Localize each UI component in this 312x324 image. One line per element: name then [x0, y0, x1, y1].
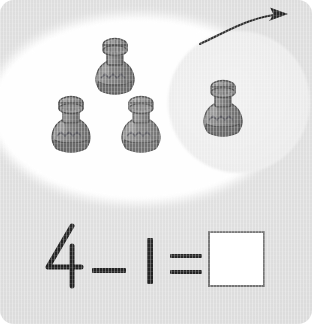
bottle-icon-3: bottle-3	[114, 92, 168, 158]
bottle-icon-4-removed: bottle-4	[196, 76, 250, 142]
worksheet-card: bottle-1	[0, 0, 312, 324]
take-away-arrow: take-away-arrow	[196, 4, 312, 50]
subtrahend-digit-1: 1	[147, 238, 153, 284]
minuend-digit-4: 4	[42, 220, 88, 292]
minus-operator: −	[92, 268, 126, 273]
equation-row: 4 − 1 =	[0, 224, 312, 296]
bottle-icon-1: bottle-1	[88, 34, 142, 100]
bottle-icon-2: bottle-2	[44, 92, 98, 158]
answer-input-box[interactable]	[208, 231, 265, 287]
